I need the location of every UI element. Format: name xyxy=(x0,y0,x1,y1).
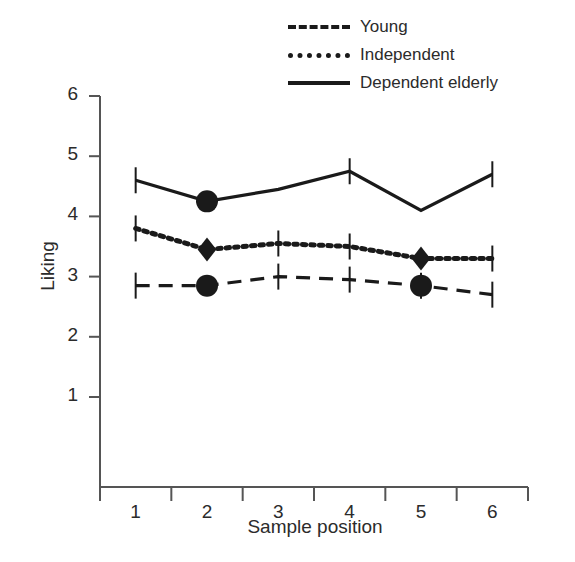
x-tick-label: 4 xyxy=(330,501,370,523)
x-tick-label: 1 xyxy=(116,501,156,523)
y-tick-label: 6 xyxy=(48,83,78,105)
series-line xyxy=(136,171,493,210)
data-point-marker xyxy=(196,275,218,297)
y-tick-label: 1 xyxy=(48,384,78,406)
x-tick-label: 5 xyxy=(401,501,441,523)
series-line xyxy=(136,277,493,295)
data-point-marker xyxy=(196,190,218,212)
y-tick-label: 2 xyxy=(48,324,78,346)
data-point-marker xyxy=(412,247,431,271)
y-tick-label: 3 xyxy=(48,264,78,286)
series-dependent-elderly xyxy=(136,158,493,212)
y-tick-label: 5 xyxy=(48,143,78,165)
data-point-marker xyxy=(410,275,432,297)
y-tick-label: 4 xyxy=(48,203,78,225)
line-chart-figure: Young Independent Dependent elderly Liki… xyxy=(0,0,575,562)
series-line xyxy=(136,228,493,258)
series-independent xyxy=(136,215,493,271)
x-tick-label: 3 xyxy=(258,501,298,523)
x-tick-label: 2 xyxy=(187,501,227,523)
series-young xyxy=(136,264,493,308)
data-point-marker xyxy=(198,238,217,262)
x-tick-label: 6 xyxy=(472,501,512,523)
plot-area xyxy=(0,0,575,562)
